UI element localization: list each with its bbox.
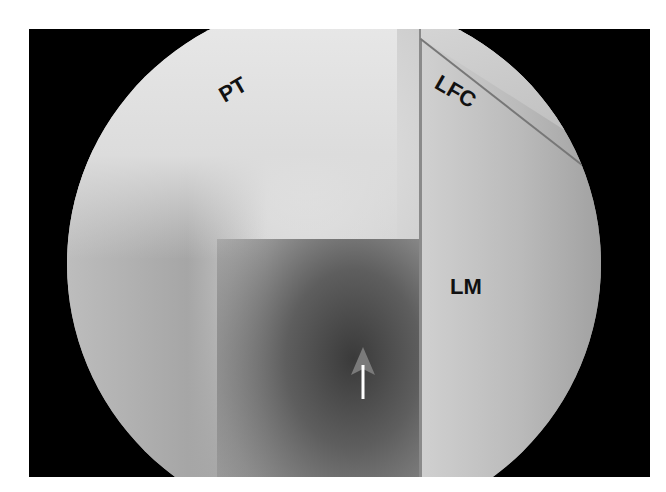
arrow-icon [351,347,375,399]
dark-recess-region [217,239,427,477]
label-lm: LM [450,274,482,300]
image-frame: PT LFC LM [29,29,650,477]
patellar-tendon-region [67,29,397,259]
arthroscope-view [67,29,601,477]
meniscus-edge [419,29,422,477]
